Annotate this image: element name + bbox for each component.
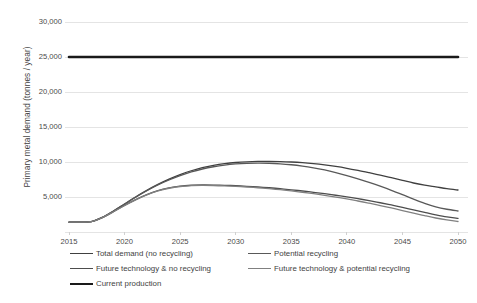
chart-legend: Total demand (no recycling)Potential rec…: [70, 246, 470, 291]
legend-line-swatch: [248, 253, 271, 254]
legend-label: Future technology & no recycling: [96, 264, 211, 274]
series-line: [69, 163, 458, 222]
legend-label: Future technology & potential recycling: [274, 264, 410, 274]
legend-item[interactable]: Future technology & potential recycling: [248, 261, 448, 276]
legend-line-swatch: [70, 268, 93, 269]
legend-line-swatch: [248, 268, 271, 269]
legend-item[interactable]: Future technology & no recycling: [70, 261, 248, 276]
legend-line-swatch: [70, 253, 93, 254]
legend-line-swatch: [70, 283, 93, 285]
legend-item[interactable]: Total demand (no recycling): [70, 246, 248, 261]
chart-container: Primary metal demand (tonnes / year) 5,0…: [0, 0, 477, 303]
legend-item[interactable]: Current production: [70, 276, 248, 291]
legend-label: Potential recycling: [274, 249, 338, 259]
series-line: [69, 185, 458, 222]
legend-item[interactable]: Potential recycling: [248, 246, 448, 261]
series-line: [69, 161, 458, 222]
legend-label: Total demand (no recycling): [96, 249, 193, 259]
legend-label: Current production: [96, 279, 161, 289]
